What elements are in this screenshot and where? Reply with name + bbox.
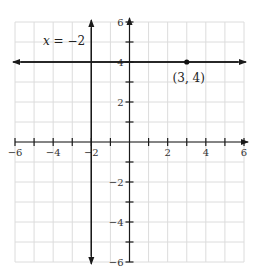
x-tick-label: −6 — [8, 147, 23, 158]
y-tick-label: −2 — [109, 177, 124, 188]
label-x-equals-neg2: x = −2 — [43, 34, 85, 48]
label-point-3-4: (3, 4) — [173, 71, 205, 85]
x-tick-label: 6 — [241, 147, 247, 158]
axes — [15, 18, 248, 262]
x-tick-label: 4 — [203, 147, 209, 158]
x-tick-label: 2 — [164, 147, 170, 158]
plotted-points — [184, 59, 189, 64]
y-tick-label: −6 — [109, 257, 124, 268]
y-tick-label: 6 — [117, 17, 123, 28]
y-tick-label: −4 — [109, 217, 124, 228]
point-3-4 — [184, 59, 189, 64]
coordinate-plane: −6−4−2246642−2−4−6 x = −2(3, 4) — [0, 0, 258, 278]
y-tick-label: 2 — [117, 97, 123, 108]
x-tick-label: −4 — [46, 147, 61, 158]
